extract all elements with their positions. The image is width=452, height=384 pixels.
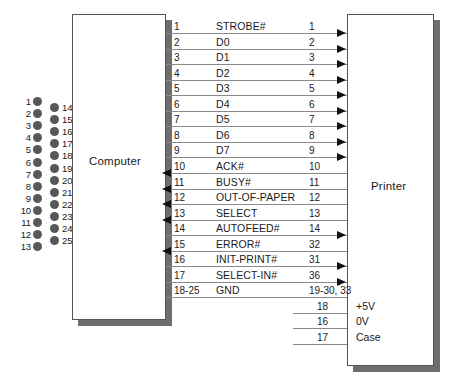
signal-line: [166, 142, 347, 143]
computer-pin-number: 6: [174, 99, 180, 110]
signal-line: [166, 173, 347, 174]
db25-pin-dot-left: [33, 218, 42, 227]
computer-pin-number: 2: [174, 37, 180, 48]
db25-pin-dot-left: [33, 158, 42, 167]
signal-line: [166, 157, 347, 158]
signal-name: D4: [216, 98, 230, 110]
signal-line: [166, 49, 347, 50]
computer-pin-number: 4: [174, 68, 180, 79]
printer-only-pin-number: 17: [317, 332, 328, 343]
printer-pin-number: 5: [309, 83, 315, 94]
db25-pin-dot-left: [33, 206, 42, 215]
computer-pin-number: 9: [174, 145, 180, 156]
computer-pin-number: 3: [174, 52, 180, 63]
signal-name: ERROR#: [216, 238, 260, 250]
computer-pin-number: 7: [174, 114, 180, 125]
computer-pin-number: 13: [174, 208, 185, 219]
printer-pin-number: 11: [309, 177, 319, 188]
signal-name: BUSY#: [216, 176, 251, 188]
db25-pin-number-left: 6: [11, 157, 31, 168]
arrow-to-printer-icon: [337, 122, 346, 130]
signal-line: [166, 297, 347, 298]
printer-pin-number: 3: [309, 52, 315, 63]
arrow-to-printer-icon: [337, 91, 346, 99]
signal-name: D0: [216, 36, 230, 48]
signal-name: D2: [216, 67, 230, 79]
computer-pin-number: 11: [174, 177, 184, 188]
arrow-to-printer-icon: [337, 29, 346, 37]
printer-box-shadow-bottom: [353, 366, 440, 372]
db25-pin-number-left: 2: [11, 108, 31, 119]
db25-pin-number-left: 1: [11, 96, 31, 107]
signal-name: AUTOFEED#: [216, 222, 280, 234]
computer-pin-number: 1: [174, 21, 180, 32]
signal-line: [166, 33, 347, 34]
computer-pin-number: 10: [174, 161, 185, 172]
signal-name: SELECT-IN#: [216, 269, 277, 281]
signal-line: [166, 189, 347, 190]
computer-pin-number: 17: [174, 270, 185, 281]
db25-pin-dot-right: [50, 224, 59, 233]
printer-only-line: [293, 313, 347, 314]
printer-pin-number: 1: [309, 21, 315, 32]
printer-pin-number: 31: [309, 254, 320, 265]
db25-pin-number-left: 8: [11, 181, 31, 192]
printer-pin-number: 32: [309, 239, 320, 250]
signal-line: [166, 95, 347, 96]
db25-pin-number-left: 10: [11, 205, 31, 216]
printer-only-label: +5V: [356, 300, 375, 312]
arrow-to-computer-icon: [162, 247, 171, 255]
arrow-to-computer-icon: [162, 169, 171, 177]
computer-box: [72, 14, 166, 320]
db25-pin-dot-right: [50, 188, 59, 197]
computer-pin-number: 5: [174, 83, 180, 94]
db25-pin-dot-left: [33, 170, 42, 179]
arrow-to-printer-icon: [337, 153, 346, 161]
arrow-to-printer-icon: [337, 262, 346, 270]
arrow-to-printer-icon: [337, 60, 346, 68]
db25-pin-number-left: 5: [11, 144, 31, 155]
signal-line: [166, 126, 347, 127]
printer-only-line: [293, 328, 347, 329]
printer-pin-number: 14: [309, 223, 320, 234]
db25-pin-dot-right: [50, 164, 59, 173]
printer-only-line: [293, 344, 347, 345]
signal-line: [166, 220, 347, 221]
printer-pin-number: 12: [309, 192, 320, 203]
db25-pin-number-left: 13: [11, 241, 31, 252]
computer-pin-number: 18-25: [174, 285, 200, 296]
printer-label: Printer: [371, 180, 406, 192]
printer-pin-number: 4: [309, 68, 315, 79]
printer-pin-number: 8: [309, 130, 315, 141]
signal-name: D7: [216, 144, 230, 156]
printer-pin-number: 2: [309, 37, 315, 48]
arrow-to-computer-icon: [162, 185, 171, 193]
signal-line: [166, 111, 347, 112]
db25-pin-dot-left: [33, 194, 42, 203]
db25-pin-number-left: 3: [11, 120, 31, 131]
computer-pin-number: 14: [174, 223, 185, 234]
arrow-to-printer-icon: [337, 231, 346, 239]
signal-name: D3: [216, 82, 230, 94]
computer-pin-number: 16: [174, 254, 185, 265]
printer-pin-number: 9: [309, 145, 315, 156]
db25-pin-number-left: 11: [11, 217, 31, 228]
db25-pin-number-left: 7: [11, 169, 31, 180]
printer-pin-number: 36: [309, 270, 320, 281]
db25-pin-dot-right: [50, 200, 59, 209]
arrow-to-computer-icon: [162, 200, 171, 208]
db25-pin-dot-right: [50, 176, 59, 185]
signal-line: [166, 80, 347, 81]
printer-pin-number: 7: [309, 114, 315, 125]
computer-pin-number: 15: [174, 239, 185, 250]
signal-line: [166, 266, 347, 267]
signal-line: [166, 204, 347, 205]
db25-pin-number-left: 12: [11, 229, 31, 240]
signal-line: [166, 235, 347, 236]
printer-only-label: 0V: [356, 315, 369, 327]
signal-name: INIT-PRINT#: [216, 253, 277, 265]
arrow-to-printer-icon: [337, 45, 346, 53]
parallel-port-diagram: 1234567891011121314151617181920212223242…: [0, 0, 452, 384]
arrow-to-printer-icon: [337, 107, 346, 115]
db25-pin-dot-right: [50, 212, 59, 221]
